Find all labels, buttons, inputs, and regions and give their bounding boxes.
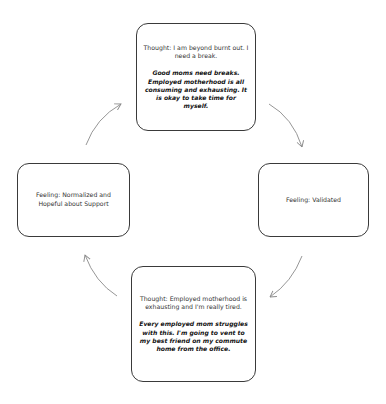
arrow-top-to-right [269,104,302,147]
node-thought-text: Thought: I am beyond burnt out. I need a… [143,44,249,61]
node-feeling-normalized: Feeling: Normalized and Hopeful about Su… [17,163,130,237]
arrow-left-to-top [86,104,121,145]
node-reframe-text: Good moms need breaks. Employed motherho… [143,69,249,110]
node-thought-exhausting: Thought: Employed motherhood is exhausti… [131,266,256,382]
node-feeling-text: Feeling: Normalized and Hopeful about Su… [24,191,123,208]
node-feeling-text: Feeling: Validated [286,196,341,205]
arrow-right-to-bottom [270,256,302,297]
node-feeling-validated: Feeling: Validated [258,163,369,237]
arrow-bottom-to-left [85,255,117,296]
node-reframe-text: Every employed mom struggles with this. … [138,320,249,353]
node-thought-burnt-out: Thought: I am beyond burnt out. I need a… [136,23,256,131]
node-thought-text: Thought: Employed motherhood is exhausti… [138,295,249,312]
